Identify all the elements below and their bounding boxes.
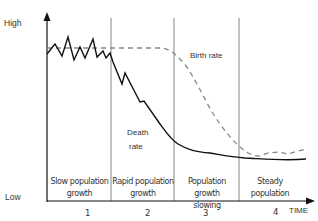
- birth-rate-label: Birth rate: [190, 52, 222, 60]
- stage-3-caption: Population growth slowing: [175, 176, 239, 212]
- stage-1-number: 1: [85, 208, 90, 218]
- stage-4-caption: Steady population: [240, 176, 300, 200]
- y-axis-arrow-icon: [44, 12, 51, 21]
- stage-4-line1: Steady: [240, 176, 300, 188]
- stage-2-caption: Rapid population growth: [112, 176, 174, 200]
- x-axis-time-label: TIME: [289, 207, 308, 215]
- stage-1-line2: growth: [48, 188, 111, 200]
- stage-1-caption: Slow population growth: [48, 176, 111, 200]
- y-low-label: Low: [5, 193, 21, 202]
- x-axis-arrow-icon: [306, 198, 315, 205]
- death-rate-line: [47, 37, 306, 160]
- stage-4-number: 4: [273, 207, 278, 217]
- stage-3-number: 3: [203, 208, 208, 218]
- stage-1-line1: Slow population: [48, 176, 111, 188]
- birth-rate-line: [47, 48, 306, 156]
- stage-2-line1: Rapid population: [112, 176, 174, 188]
- stage-2-line2: growth: [112, 188, 174, 200]
- y-high-label: High: [4, 19, 21, 28]
- stage-2-number: 2: [145, 208, 150, 218]
- death-rate-label-1: Death: [127, 129, 148, 137]
- death-rate-label-2: rate: [129, 143, 143, 151]
- stage-4-line2: population: [240, 188, 300, 200]
- stage-3-line1: Population growth: [175, 176, 239, 200]
